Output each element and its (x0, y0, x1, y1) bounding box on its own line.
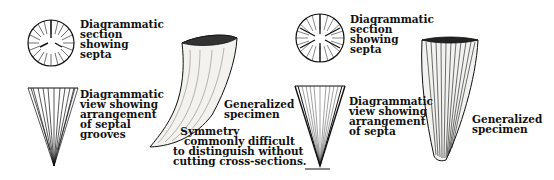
right-section-label: Diagrammatic section showing septa (350, 14, 434, 54)
left-view-label: Diagrammatic view showing arrangement of… (80, 89, 164, 139)
right-view-label: Diagrammatic view showing arrangement of… (349, 96, 433, 136)
right-section-circle (296, 14, 344, 62)
right-specimen-label: Generalized specimen (472, 114, 542, 134)
left-section-label: Diagrammatic section showing septa (80, 19, 164, 59)
left-cone-view (28, 88, 78, 166)
left-note-label: Symmetry commonly difficult to distingui… (173, 126, 307, 166)
left-specimen-label: Generalized specimen (224, 99, 294, 119)
left-section-circle (28, 20, 74, 66)
